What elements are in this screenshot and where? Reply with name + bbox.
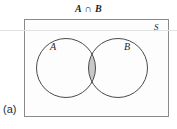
universal-set-rectangle bbox=[25, 20, 169, 117]
set-b-label: B bbox=[124, 41, 130, 52]
scan-artifact-line bbox=[0, 30, 177, 31]
universal-set-label: S bbox=[154, 22, 159, 33]
figure-part-label: (a) bbox=[3, 102, 16, 116]
venn-diagram-figure: A ∩ B A B S (a) bbox=[0, 0, 177, 129]
set-a-label: A bbox=[50, 41, 56, 52]
venn-diagram-canvas bbox=[0, 0, 177, 129]
